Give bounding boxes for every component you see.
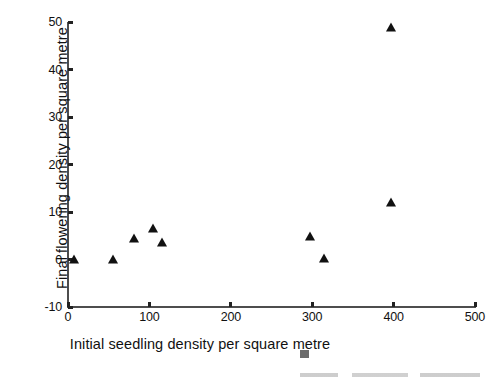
scan-artifact-bottom: [300, 373, 480, 377]
x-tick-label: 200: [221, 310, 241, 324]
x-tick-label: 0: [65, 310, 72, 324]
data-point-marker: [108, 254, 118, 263]
data-point-marker: [319, 253, 329, 262]
data-point-marker: [386, 23, 396, 32]
x-tick-mark: [148, 302, 151, 307]
x-tick-label: 500: [465, 310, 485, 324]
data-point-marker: [305, 232, 315, 241]
data-point-marker: [157, 238, 167, 247]
data-point-marker: [129, 233, 139, 242]
x-tick-label: 300: [302, 310, 322, 324]
x-axis-title: Initial seedling density per square metr…: [0, 336, 400, 352]
scatter-plot-figure: -1001020304050 0100200300400500 Initial …: [0, 0, 501, 377]
data-point-marker: [148, 224, 158, 233]
x-tick-mark: [229, 302, 232, 307]
y-axis-title: Final flowering density per square metre: [54, 8, 70, 308]
data-point-marker: [386, 198, 396, 207]
scan-artifact-corner: [300, 350, 309, 358]
x-tick-label: 400: [383, 310, 403, 324]
x-tick-mark: [311, 302, 314, 307]
x-tick-label: 100: [139, 310, 159, 324]
x-tick-mark: [392, 302, 395, 307]
x-tick-mark: [474, 302, 477, 307]
data-point-marker: [69, 254, 79, 263]
x-axis-line: [67, 306, 476, 308]
